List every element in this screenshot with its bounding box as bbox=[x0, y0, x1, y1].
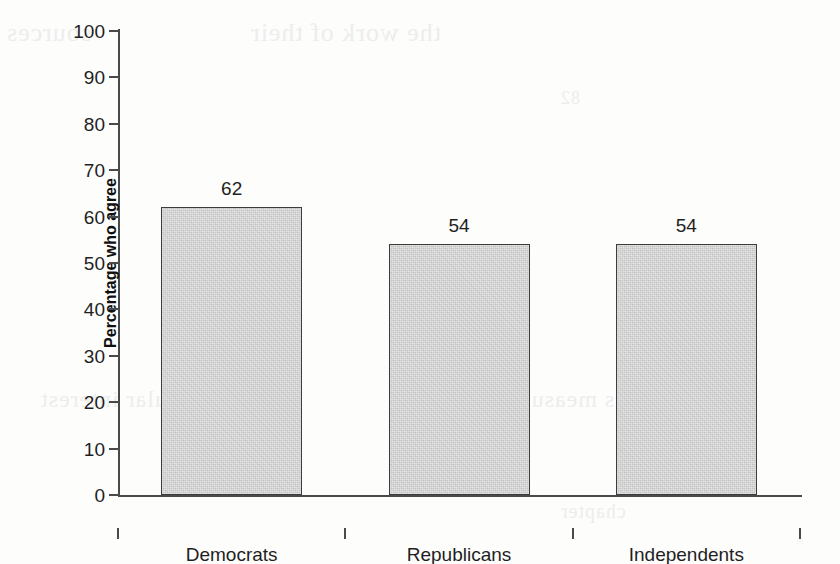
y-axis-tick bbox=[109, 494, 118, 496]
y-axis-tick bbox=[109, 401, 118, 403]
y-axis-tick-label: 0 bbox=[94, 486, 105, 505]
y-axis-tick bbox=[109, 30, 118, 32]
y-axis-tick bbox=[109, 216, 118, 218]
bar bbox=[389, 244, 530, 495]
y-axis-tick-label: 70 bbox=[84, 161, 105, 180]
bar-value-label: 62 bbox=[221, 179, 242, 198]
plot-area: Percentage who agree 0102030405060708090… bbox=[118, 31, 800, 495]
y-axis-tick bbox=[109, 76, 118, 78]
y-axis-tick-label: 90 bbox=[84, 68, 105, 87]
y-axis-tick bbox=[109, 355, 118, 357]
x-axis-category-label: Republicans bbox=[407, 545, 512, 564]
y-axis-tick bbox=[109, 169, 118, 171]
y-axis-tick-label: 40 bbox=[84, 300, 105, 319]
y-axis-tick-label: 100 bbox=[73, 22, 105, 41]
bar-value-label: 54 bbox=[676, 216, 697, 235]
x-axis-tick bbox=[799, 528, 801, 539]
x-axis-line bbox=[118, 495, 802, 497]
y-axis-tick-label: 30 bbox=[84, 346, 105, 365]
x-axis-tick bbox=[117, 528, 119, 539]
x-axis-tick bbox=[344, 528, 346, 539]
y-axis-tick-label: 60 bbox=[84, 207, 105, 226]
bleedthrough-artifact: chapter bbox=[560, 500, 626, 523]
bar bbox=[616, 244, 757, 495]
y-axis-tick-label: 80 bbox=[84, 114, 105, 133]
y-axis-tick bbox=[109, 123, 118, 125]
y-axis-tick-label: 50 bbox=[84, 254, 105, 273]
x-axis-category-label: Independents bbox=[629, 545, 744, 564]
bar-value-label: 54 bbox=[448, 216, 469, 235]
bar bbox=[161, 207, 302, 495]
y-axis-tick bbox=[109, 448, 118, 450]
y-axis-tick-label: 10 bbox=[84, 439, 105, 458]
y-axis-tick-label: 20 bbox=[84, 393, 105, 412]
chart-page: sources the work of their particular int… bbox=[0, 0, 840, 564]
y-axis-tick bbox=[109, 262, 118, 264]
x-axis-category-label: Democrats bbox=[186, 545, 278, 564]
x-axis-tick bbox=[572, 528, 574, 539]
y-axis-tick bbox=[109, 308, 118, 310]
